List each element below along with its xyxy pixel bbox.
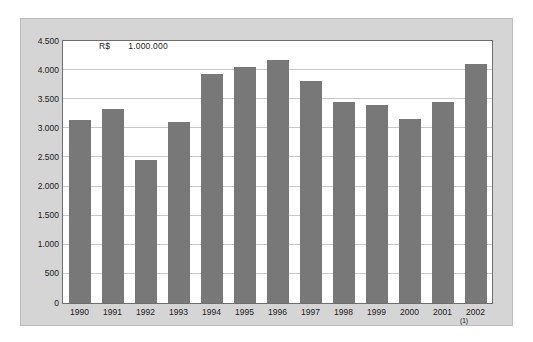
x-axis-tick-label: 1997 [294, 307, 327, 317]
x-axis-tick-label: 1994 [195, 307, 228, 317]
y-axis-tick-label: 1.000 [21, 240, 59, 249]
bar-slot [63, 41, 96, 303]
x-axis-tick-footnote: (1) [459, 317, 492, 325]
bar[interactable] [168, 122, 190, 303]
bar[interactable] [201, 74, 223, 303]
bar[interactable] [69, 120, 91, 303]
x-axis-tick-year: 1998 [334, 307, 353, 317]
x-axis-tick-label: 1995 [228, 307, 261, 317]
y-axis-tick-label: 4.500 [21, 37, 59, 46]
x-axis-tick-label: 1996 [261, 307, 294, 317]
x-axis-tick-label: 2001 [426, 307, 459, 317]
x-axis-tick-year: 1992 [136, 307, 155, 317]
bar-slot [327, 41, 360, 303]
x-axis-tick-year: 2002 [466, 307, 485, 317]
chart-panel: 4.5004.0003.5003.0002.5002.0001.5001.000… [20, 18, 513, 326]
bar[interactable] [234, 67, 256, 303]
bar[interactable] [399, 119, 421, 303]
bar-slot [360, 41, 393, 303]
bar[interactable] [333, 102, 355, 303]
bar[interactable] [267, 60, 289, 303]
bar-slot [96, 41, 129, 303]
bar-slot [294, 41, 327, 303]
y-axis-tick-label: 3.500 [21, 95, 59, 104]
bar-slot [129, 41, 162, 303]
x-axis-tick-year: 1994 [202, 307, 221, 317]
bar-slot [195, 41, 228, 303]
bar[interactable] [135, 160, 157, 303]
x-axis-tick-label: 1993 [162, 307, 195, 317]
x-axis-tick-label: 2000 [393, 307, 426, 317]
x-axis-tick-year: 1995 [235, 307, 254, 317]
x-axis-tick-year: 2001 [433, 307, 452, 317]
y-axis-tick-label: 3.000 [21, 124, 59, 133]
bar[interactable] [102, 109, 124, 303]
bar[interactable] [300, 81, 322, 303]
y-axis-tick-label: 2.500 [21, 153, 59, 162]
bar[interactable] [366, 105, 388, 303]
y-axis-tick-label: 2.000 [21, 182, 59, 191]
bars-container [63, 41, 492, 303]
bar-slot [459, 41, 492, 303]
x-axis-tick-label: 1992 [129, 307, 162, 317]
x-axis-tick-label: 1991 [96, 307, 129, 317]
y-axis-tick-label: 1.500 [21, 211, 59, 220]
x-axis-tick-year: 1996 [268, 307, 287, 317]
bar[interactable] [432, 102, 454, 303]
x-axis-tick-label: 1999 [360, 307, 393, 317]
bar[interactable] [465, 64, 487, 303]
x-axis-labels: 1990199119921993199419951996199719981999… [63, 307, 492, 337]
y-axis-tick-label: 4.000 [21, 66, 59, 75]
bar-slot [393, 41, 426, 303]
x-axis-tick-year: 1997 [301, 307, 320, 317]
y-axis-labels: 4.5004.0003.5003.0002.5002.0001.5001.000… [21, 40, 59, 304]
bar-slot [426, 41, 459, 303]
x-axis-tick-year: 1991 [103, 307, 122, 317]
chart-figure: 4.5004.0003.5003.0002.5002.0001.5001.000… [0, 0, 533, 342]
y-axis-tick-label: 0 [21, 299, 59, 308]
x-axis-tick-year: 1999 [367, 307, 386, 317]
bar-slot [228, 41, 261, 303]
bar-slot [261, 41, 294, 303]
y-axis-tick-label: 500 [21, 269, 59, 278]
x-axis-tick-year: 1993 [169, 307, 188, 317]
x-axis-tick-year: 1990 [70, 307, 89, 317]
x-axis-tick-label: 1990 [63, 307, 96, 317]
x-axis-tick-label: 1998 [327, 307, 360, 317]
x-axis-tick-label: 2002(1) [459, 307, 492, 325]
x-axis-tick-year: 2000 [400, 307, 419, 317]
bar-slot [162, 41, 195, 303]
